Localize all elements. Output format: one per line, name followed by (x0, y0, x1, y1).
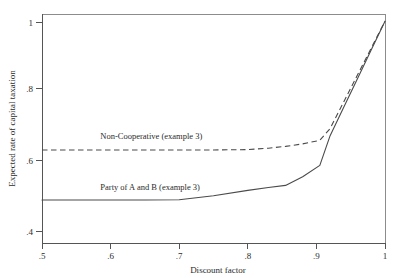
x-tick-label: .5 (39, 251, 46, 261)
series-label-party-of-a-and-b: Party of A and B (example 3) (100, 182, 200, 192)
y-tick-label: .6 (26, 156, 33, 166)
x-axis-ticks (42, 243, 385, 249)
x-tick-label: 1 (383, 251, 388, 261)
y-axis-ticks (36, 22, 42, 231)
y-axis-tick-labels: 1 .8 .6 .4 (26, 18, 33, 237)
y-tick-label: 1 (29, 18, 34, 28)
x-tick-label: .9 (313, 251, 320, 261)
y-tick-label: .8 (26, 84, 33, 94)
series-label-non-cooperative: Non-Cooperative (example 3) (100, 131, 202, 141)
series-line-non-cooperative (42, 21, 385, 150)
x-axis-title: Discount factor (190, 265, 246, 275)
chart-canvas: 1 .8 .6 .4 .5 .6 .7 .8 .9 1 Discount fac… (0, 0, 408, 278)
chart-figure: 1 .8 .6 .4 .5 .6 .7 .8 .9 1 Discount fac… (0, 0, 408, 278)
y-axis-title: Expected rate of capital taxation (7, 70, 17, 187)
x-tick-label: .7 (176, 251, 183, 261)
x-axis-tick-labels: .5 .6 .7 .8 .9 1 (39, 251, 388, 261)
x-tick-label: .8 (244, 251, 251, 261)
x-tick-label: .6 (107, 251, 114, 261)
series-line-party-of-a-and-b (42, 21, 385, 200)
y-tick-label: .4 (26, 227, 33, 237)
